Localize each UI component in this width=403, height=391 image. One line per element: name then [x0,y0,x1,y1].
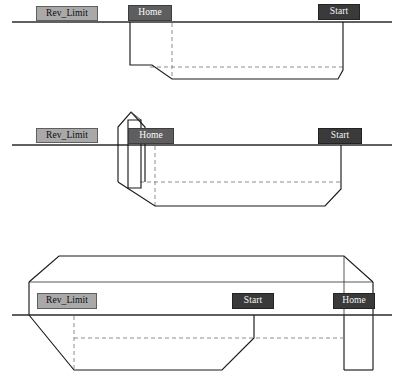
diagram-svg [0,0,403,391]
marker-label: Rev_Limit [46,296,88,306]
marker-home-stage-3[interactable]: Home [333,293,375,309]
marker-home-stage-2[interactable]: Home [128,128,174,144]
diagram-canvas: Rev_Limit Home Start Rev_Limit Home Star… [0,0,403,391]
marker-label: Rev_Limit [46,131,88,141]
marker-rev-limit-stage-2[interactable]: Rev_Limit [36,128,98,143]
marker-rev-limit-stage-1[interactable]: Rev_Limit [36,6,98,21]
marker-label: Home [139,131,163,141]
marker-rev-limit-stage-3[interactable]: Rev_Limit [37,293,97,309]
stage-3-top-face [29,256,373,282]
marker-label: Start [330,7,348,17]
stage-2-envelope [118,145,341,206]
marker-label: Start [244,296,262,306]
marker-label: Start [331,131,349,141]
stage-1-group [12,22,392,79]
stage-2-group [12,112,392,206]
marker-start-stage-2[interactable]: Start [318,128,362,144]
stage-2-peak-edge [131,112,141,120]
stage-3-group [12,256,392,370]
stage-1-envelope [130,22,343,79]
stage-3-bottom-envelope [29,315,254,370]
marker-home-stage-1[interactable]: Home [128,5,172,21]
marker-label: Rev_Limit [46,9,88,19]
marker-start-stage-1[interactable]: Start [318,4,360,20]
marker-label: Home [138,8,162,18]
marker-start-stage-3[interactable]: Start [232,293,274,309]
marker-label: Home [342,296,366,306]
